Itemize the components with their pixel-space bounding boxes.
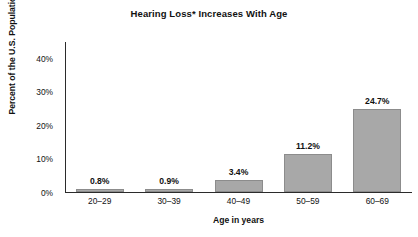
x-tick-label: 50–59 — [275, 196, 341, 206]
bar — [353, 109, 401, 192]
bar — [76, 189, 124, 192]
x-tick-label-group: 20–2930–3940–4950–5960–69 — [65, 196, 412, 210]
y-tick-label: 10% — [19, 154, 53, 164]
x-axis-line — [65, 192, 412, 193]
bar-value-label: 0.8% — [67, 176, 133, 186]
bar-group: 11.2% — [284, 41, 332, 192]
bar-group: 0.9% — [145, 41, 193, 192]
bar — [284, 154, 332, 192]
x-tick-label: 30–39 — [136, 196, 202, 206]
y-tick-label: 30% — [19, 87, 53, 97]
y-axis-title: Percent of the U.S. Population — [7, 0, 17, 128]
bar-group: 0.8% — [76, 41, 124, 192]
x-tick-label: 60–69 — [344, 196, 410, 206]
bar-value-label: 0.9% — [136, 176, 202, 186]
bar-value-label: 11.2% — [275, 141, 341, 151]
bars-layer: 0.8%0.9%3.4%11.2%24.7% — [65, 42, 412, 192]
bar-group: 24.7% — [353, 41, 401, 192]
bar — [145, 189, 193, 192]
bar-group: 3.4% — [215, 41, 263, 192]
plot-area: 0%10%20%30%40% 0.8%0.9%3.4%11.2%24.7% — [65, 42, 412, 193]
bar — [215, 180, 263, 191]
bar-value-label: 3.4% — [206, 167, 272, 177]
bar-value-label: 24.7% — [344, 96, 410, 106]
chart-title: Hearing Loss* Increases With Age — [0, 8, 418, 19]
bar-chart-figure: Hearing Loss* Increases With Age Percent… — [0, 0, 418, 237]
x-tick-label: 20–29 — [67, 196, 133, 206]
y-tick-label: 40% — [19, 54, 53, 64]
x-axis-title: Age in years — [65, 215, 412, 225]
y-tick-label: 20% — [19, 121, 53, 131]
x-tick-label: 40–49 — [206, 196, 272, 206]
y-tick-label: 0% — [19, 188, 53, 198]
